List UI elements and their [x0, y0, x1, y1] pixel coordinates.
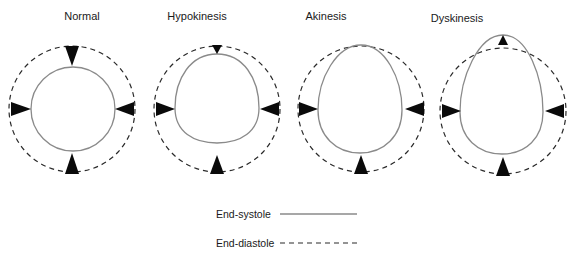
- arrow-up-icon: [210, 155, 224, 174]
- end-systole-outline: [175, 54, 259, 143]
- panel-title-dyskinesis: Dyskinesis: [431, 12, 484, 24]
- panel-title-akinesis: Akinesis: [306, 10, 347, 22]
- arrow-up-outward-icon: [498, 35, 508, 45]
- arrow-left-icon: [260, 102, 279, 116]
- arrow-down-icon: [212, 45, 222, 54]
- end-systole-outline: [318, 45, 402, 153]
- end-systole-outline: [460, 35, 543, 154]
- arrow-left-icon: [545, 104, 564, 118]
- arrow-left-icon: [115, 102, 134, 116]
- arrow-up-icon: [65, 153, 79, 174]
- panel-title-hypokinesis: Hypokinesis: [167, 10, 227, 22]
- panel-hypokinesis: Hypokinesis: [154, 10, 280, 174]
- end-systole-outline: [31, 67, 115, 151]
- panel-akinesis: Akinesis: [298, 10, 424, 174]
- arrow-up-icon: [496, 157, 510, 176]
- legend: End-systole End-diastole: [216, 208, 357, 249]
- legend-label-end-diastole: End-diastole: [216, 237, 275, 249]
- arrow-left-icon: [405, 102, 424, 116]
- arrow-right-icon: [11, 102, 31, 116]
- panel-normal: Normal: [9, 10, 135, 174]
- panel-dyskinesis: Dyskinesis: [431, 12, 566, 176]
- arrow-right-icon: [156, 102, 175, 116]
- wall-motion-diagram: Normal Hypokinesis Akinesis Dyskinesis: [0, 0, 574, 254]
- arrow-right-icon: [442, 104, 461, 118]
- arrow-up-icon: [354, 155, 368, 174]
- panel-title-normal: Normal: [64, 10, 99, 22]
- arrow-right-icon: [299, 102, 318, 116]
- arrow-down-icon: [65, 46, 79, 66]
- legend-label-end-systole: End-systole: [216, 208, 271, 220]
